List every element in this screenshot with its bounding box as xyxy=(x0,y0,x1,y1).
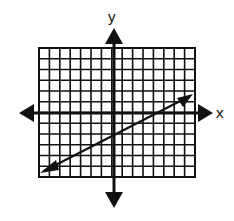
y-axis-up-arrow-icon xyxy=(105,28,123,44)
y-axis-down-arrow-icon xyxy=(105,192,123,208)
x-axis-label: x xyxy=(216,104,224,121)
y-axis-label: y xyxy=(108,8,116,25)
coordinate-graph: y x xyxy=(0,0,234,221)
x-axis-left-arrow-icon xyxy=(19,104,34,122)
x-axis-right-arrow-icon xyxy=(198,104,213,122)
